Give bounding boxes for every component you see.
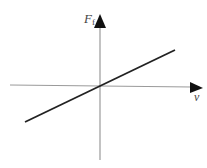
- x-axis-label: v: [194, 91, 199, 103]
- y-axis-label: Ff: [84, 12, 95, 27]
- y-axis-arrow-icon: [94, 14, 106, 28]
- force-velocity-diagram: [0, 0, 207, 168]
